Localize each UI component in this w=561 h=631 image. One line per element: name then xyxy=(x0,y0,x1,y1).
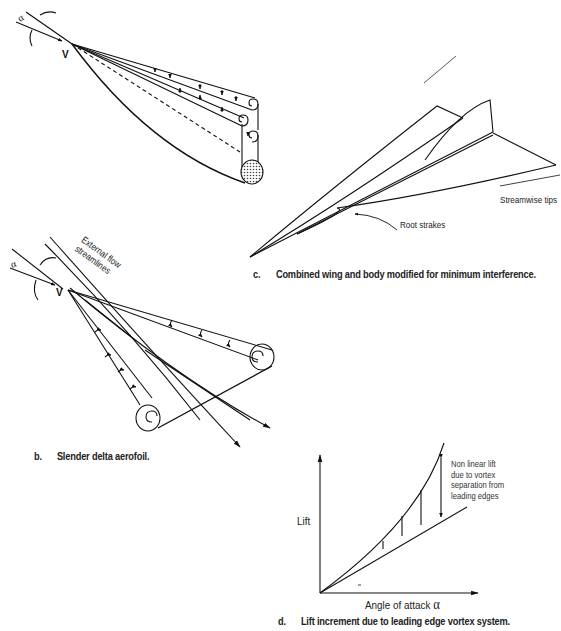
caption-text: Lift increment due to leading edge vorte… xyxy=(301,615,510,627)
caption-letter: b. xyxy=(34,450,57,462)
linear-lift-line xyxy=(320,507,467,593)
caption-text: Slender delta aerofoil. xyxy=(57,450,149,462)
panel-a-delta-wing-vortex xyxy=(16,12,263,184)
alpha-symbol: α xyxy=(433,597,440,612)
caption-letter: d. xyxy=(278,615,301,627)
x-axis-label-text: Angle of attack xyxy=(365,599,431,611)
diagram-canvas: α V xyxy=(0,0,561,631)
root-strakes-label: Root strakes xyxy=(400,219,445,230)
panel-b-slender-delta xyxy=(10,237,274,447)
total-lift-curve xyxy=(320,443,444,593)
panel-d-caption: d.Lift increment due to leading edge vor… xyxy=(278,615,510,627)
nonlinear-lift-annotation: Non linear lift due to vortex separation… xyxy=(451,459,504,501)
caption-text: Combined wing and body modified for mini… xyxy=(276,268,536,280)
panel-b-caption: b.Slender delta aerofoil. xyxy=(34,450,149,462)
panel-b-velocity-symbol: V xyxy=(56,287,63,298)
caption-letter: c. xyxy=(253,268,276,280)
panel-a-velocity-symbol: V xyxy=(62,49,69,60)
panel-c-caption: c.Combined wing and body modified for mi… xyxy=(253,268,536,280)
x-axis-label: Angle of attack α xyxy=(365,597,440,613)
panel-a-alpha-symbol: α xyxy=(16,11,27,24)
streamwise-tips-label: Streamwise tips xyxy=(500,194,557,205)
y-axis-label: Lift xyxy=(297,515,310,527)
